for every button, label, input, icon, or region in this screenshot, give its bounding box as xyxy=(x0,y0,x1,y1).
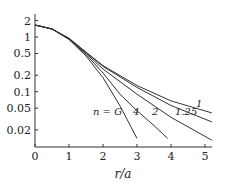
series-line xyxy=(35,25,212,113)
chart: 012345210.50.20.10.050.02r/an = G421.251 xyxy=(0,0,225,184)
x-tick-label: 5 xyxy=(202,150,209,163)
x-tick-label: 0 xyxy=(32,150,39,163)
x-tick-label: 3 xyxy=(134,150,141,163)
y-tick-label: 2 xyxy=(24,15,31,28)
series-label: 1 xyxy=(196,98,202,109)
y-tick-label: 0.2 xyxy=(14,69,32,82)
y-tick-label: 1 xyxy=(24,31,31,44)
y-tick-label: 0.02 xyxy=(7,124,32,137)
x-axis-label: r/a xyxy=(115,167,132,181)
series-line xyxy=(35,25,212,140)
series-label: 4 xyxy=(132,106,139,117)
series-label: 2 xyxy=(151,106,158,117)
series-line xyxy=(35,25,137,138)
x-tick-label: 1 xyxy=(66,150,73,163)
x-tick-label: 2 xyxy=(100,150,107,163)
plot-area: 012345210.50.20.10.050.02r/an = G421.251 xyxy=(0,0,225,184)
series-line xyxy=(35,25,168,138)
y-tick-label: 0.5 xyxy=(14,47,32,60)
y-tick-label: 0.05 xyxy=(7,102,32,115)
x-tick-label: 4 xyxy=(168,150,175,163)
series-label: 1.25 xyxy=(175,106,197,117)
series-label: n = G xyxy=(93,106,122,117)
y-tick-label: 0.1 xyxy=(14,86,32,99)
